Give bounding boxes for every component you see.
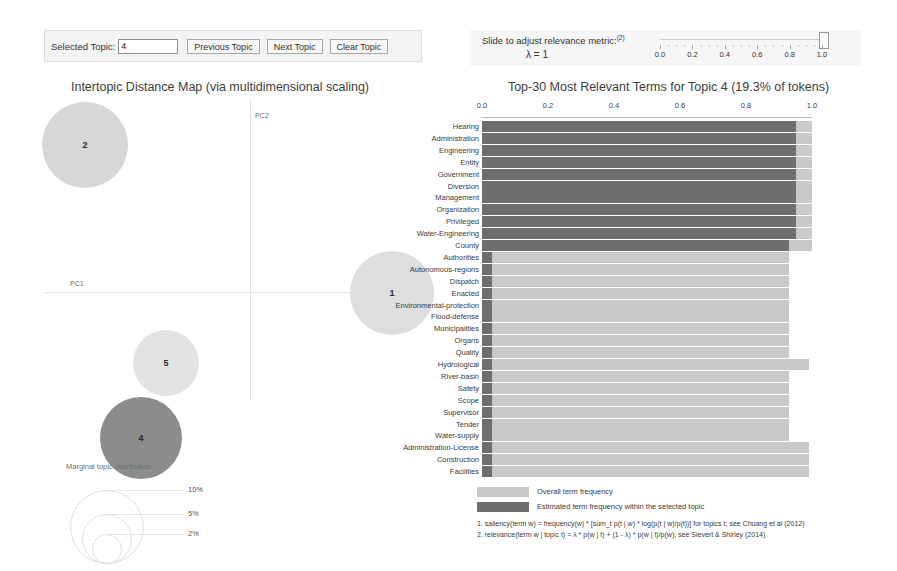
bar-topic-frequency: [482, 216, 796, 227]
bar-topic-frequency: [482, 181, 796, 192]
term-bar-row[interactable]: [482, 228, 812, 239]
term-label[interactable]: Scope: [458, 396, 479, 405]
term-label[interactable]: Organs: [454, 336, 479, 345]
bar-overall-frequency: [482, 300, 789, 311]
bar-topic-frequency: [482, 145, 796, 156]
legend-row-topic: Estimated term frequency within the sele…: [477, 502, 877, 513]
term-label[interactable]: Enacted: [451, 289, 479, 298]
term-bar-row[interactable]: [482, 252, 812, 263]
bar-topic-frequency: [482, 407, 492, 418]
term-label[interactable]: Administration: [431, 134, 479, 143]
term-label[interactable]: Government: [438, 170, 479, 179]
term-label[interactable]: Environmental-protection: [396, 301, 479, 310]
bar-topic-frequency: [482, 323, 492, 334]
term-label[interactable]: Tender: [456, 420, 479, 429]
bar-overall-frequency: [482, 466, 809, 477]
bar-topic-frequency: [482, 419, 492, 430]
bar-topic-frequency: [482, 442, 492, 453]
term-label[interactable]: Construction: [437, 455, 479, 464]
term-label[interactable]: Facilities: [450, 467, 479, 476]
term-label[interactable]: Management: [435, 193, 479, 202]
term-bar-row[interactable]: [482, 311, 812, 322]
term-label[interactable]: Water-Engineering: [417, 229, 479, 238]
term-label[interactable]: County: [455, 241, 479, 250]
bar-overall-frequency: [482, 454, 809, 465]
term-label[interactable]: Quality: [456, 348, 479, 357]
term-label[interactable]: Autonomous-regions: [410, 265, 479, 274]
bar-topic-frequency: [482, 311, 492, 322]
chart-legend: Overall term frequency Estimated term fr…: [477, 487, 877, 540]
term-bar-row[interactable]: [482, 359, 812, 370]
term-bar-row[interactable]: [482, 145, 812, 156]
bar-topic-frequency: [482, 157, 796, 168]
term-bar-row[interactable]: [482, 300, 812, 311]
x-axis-tick-label: 0.8: [741, 101, 751, 110]
bar-topic-frequency: [482, 347, 492, 358]
bar-overall-frequency: [482, 347, 789, 358]
bar-overall-frequency: [482, 407, 789, 418]
term-label[interactable]: Hearing: [453, 122, 479, 131]
legend-swatch-overall: [477, 487, 529, 497]
term-label[interactable]: Supervisor: [443, 408, 479, 417]
term-bar-row[interactable]: [482, 454, 812, 465]
term-bar-row[interactable]: [482, 419, 812, 430]
term-label[interactable]: Entity: [460, 158, 479, 167]
term-bar-row[interactable]: [482, 335, 812, 346]
term-bar-row[interactable]: [482, 121, 812, 132]
term-bar-row[interactable]: [482, 192, 812, 203]
term-bar-row[interactable]: [482, 216, 812, 227]
bar-overall-frequency: [482, 252, 789, 263]
term-bar-row[interactable]: [482, 133, 812, 144]
term-label[interactable]: Municipalities: [434, 324, 479, 333]
bar-topic-frequency: [482, 430, 492, 441]
term-bar-row[interactable]: [482, 240, 812, 251]
term-bar-row[interactable]: [482, 288, 812, 299]
bar-topic-frequency: [482, 371, 492, 382]
term-bar-row[interactable]: [482, 371, 812, 382]
bar-overall-frequency: [482, 276, 789, 287]
term-label[interactable]: Privileged: [446, 217, 479, 226]
term-label[interactable]: Dispatch: [450, 277, 479, 286]
bar-overall-frequency: [482, 323, 789, 334]
term-label[interactable]: Hydrological: [438, 360, 479, 369]
term-bar-row[interactable]: [482, 430, 812, 441]
term-bar-row[interactable]: [482, 407, 812, 418]
term-bar-row[interactable]: [482, 466, 812, 477]
bar-topic-frequency: [482, 395, 492, 406]
term-label[interactable]: River-basin: [441, 372, 479, 381]
term-label[interactable]: Flood-defense: [431, 312, 479, 321]
term-label[interactable]: Safety: [458, 384, 479, 393]
term-label[interactable]: Diversion: [448, 182, 479, 191]
term-bar-row[interactable]: [482, 442, 812, 453]
legend-row-overall: Overall term frequency: [477, 487, 877, 498]
bar-topic-frequency: [482, 121, 796, 132]
bar-overall-frequency: [482, 442, 809, 453]
term-label[interactable]: Engineering: [439, 146, 479, 155]
term-bar-row[interactable]: [482, 181, 812, 192]
bar-topic-frequency: [482, 252, 492, 263]
term-bar-row[interactable]: [482, 347, 812, 358]
term-label[interactable]: Administration-License: [403, 443, 479, 452]
term-label[interactable]: Water-supply: [435, 431, 479, 440]
term-bar-row[interactable]: [482, 383, 812, 394]
x-axis-tick-label: 0.6: [675, 101, 685, 110]
bar-topic-frequency: [482, 192, 796, 203]
bar-topic-frequency: [482, 264, 492, 275]
top-terms-bar-chart: 0.00.20.40.60.81.0HearingAdministrationE…: [0, 0, 897, 571]
term-bar-row[interactable]: [482, 395, 812, 406]
term-bar-row[interactable]: [482, 276, 812, 287]
x-axis-tick-label: 0.0: [477, 101, 487, 110]
term-bar-row[interactable]: [482, 264, 812, 275]
x-axis-tick-label: 1.0: [807, 101, 817, 110]
bar-overall-frequency: [482, 395, 789, 406]
bar-overall-frequency: [482, 264, 789, 275]
term-bar-row[interactable]: [482, 323, 812, 334]
bar-topic-frequency: [482, 335, 492, 346]
term-bar-row[interactable]: [482, 157, 812, 168]
term-bar-row[interactable]: [482, 204, 812, 215]
term-label[interactable]: Organization: [436, 205, 479, 214]
term-label[interactable]: Authorities: [444, 253, 479, 262]
bar-overall-frequency: [482, 430, 789, 441]
term-bar-row[interactable]: [482, 169, 812, 180]
bar-topic-frequency: [482, 383, 492, 394]
